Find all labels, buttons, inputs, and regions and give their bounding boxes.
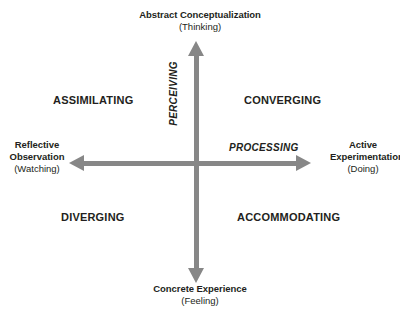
quadrant-label-converging: CONVERGING [244, 94, 321, 106]
kolb-learning-styles-diagram: Abstract Conceptualization (Thinking) Co… [0, 0, 400, 320]
pole-label-bottom: Concrete Experience (Feeling) [0, 283, 400, 307]
pole-label-left: Reflective Observation (Watching) [6, 139, 68, 175]
arrow-right-icon [296, 155, 311, 171]
pole-left-name: Reflective Observation [6, 139, 68, 163]
quadrant-label-diverging: DIVERGING [61, 211, 125, 223]
quadrant-label-assimilating: ASSIMILATING [53, 94, 133, 106]
arrow-left-icon [69, 155, 84, 171]
pole-left-sub: (Watching) [6, 163, 68, 175]
pole-right-name: Active Experimentation [330, 139, 396, 163]
pole-top-name: Abstract Conceptualization [0, 9, 400, 21]
pole-bottom-name: Concrete Experience [0, 283, 400, 295]
pole-top-sub: (Thinking) [0, 21, 400, 33]
pole-label-right: Active Experimentation (Doing) [330, 139, 396, 175]
arrow-down-icon [188, 268, 204, 283]
horizontal-axis-line [77, 161, 305, 166]
dimension-label-processing: PROCESSING [229, 142, 299, 153]
vertical-axis-line [194, 49, 199, 276]
pole-bottom-sub: (Feeling) [0, 295, 400, 307]
pole-label-top: Abstract Conceptualization (Thinking) [0, 9, 400, 33]
pole-right-sub: (Doing) [330, 163, 396, 175]
quadrant-label-accommodating: ACCOMMODATING [237, 211, 340, 223]
dimension-label-perceiving: PERCEIVING [168, 61, 179, 126]
arrow-up-icon [188, 41, 204, 56]
